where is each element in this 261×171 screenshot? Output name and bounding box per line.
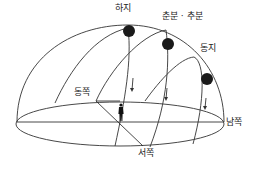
sun-summer-icon [123,25,135,37]
label-south: 남쪽 [226,118,242,127]
sun-winter-icon [201,73,213,85]
label-east: 동쪽 [74,88,90,97]
arrow-summer [130,78,134,92]
winter-solstice-path [145,57,202,144]
label-summer-solstice: 하지 [115,4,131,13]
label-winter-solstice: 동지 [200,44,216,53]
summer-solstice-path [55,28,129,146]
label-west: 서쪽 [138,149,154,158]
sun-equinox-icon [162,38,174,50]
diagram-canvas [0,0,261,171]
label-equinox: 춘분 · 추분 [162,12,203,21]
arrow-winter [203,98,207,110]
